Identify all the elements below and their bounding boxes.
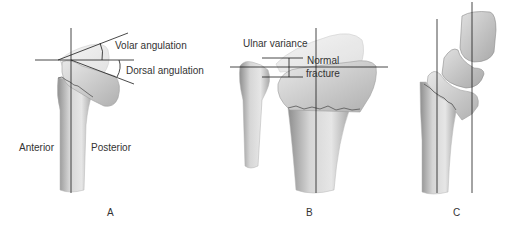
panel-label-b: B (306, 207, 313, 218)
panel-a-dorsal-arc (117, 60, 120, 77)
panel-b-radius-shaft (288, 108, 350, 193)
label-posterior: Posterior (91, 143, 131, 153)
panel-label-a: A (107, 207, 114, 218)
panel-b-ap-view (230, 28, 388, 193)
diagram-canvas (0, 0, 510, 231)
label-normal: Normal (307, 56, 339, 66)
radius-fracture-diagram: Volar angulation Dorsal angulation Anter… (0, 0, 510, 231)
panel-b-ulna (239, 62, 269, 169)
label-ulnar-variance: Ulnar variance (243, 39, 307, 49)
label-volar-angulation: Volar angulation (115, 41, 187, 51)
panel-c-capitate (460, 12, 496, 63)
label-fracture: fracture (306, 69, 340, 79)
label-anterior: Anterior (19, 143, 54, 153)
panel-label-c: C (453, 207, 460, 218)
panel-c-lateral-carpal-view (420, 2, 496, 194)
panel-a-lateral-view (35, 28, 134, 193)
label-dorsal-angulation: Dorsal angulation (126, 66, 204, 76)
